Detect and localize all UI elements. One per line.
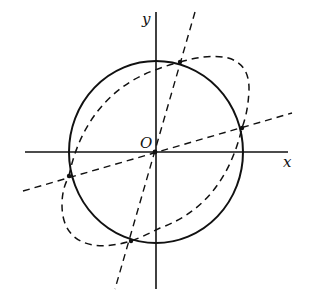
x-axis-label: x [283, 153, 292, 171]
intersection-point [67, 174, 71, 178]
origin-label: O [140, 134, 152, 152]
intersection-point [129, 239, 133, 243]
y-axis-label: y [141, 10, 151, 28]
origin-point [153, 150, 158, 155]
intersection-point [240, 126, 244, 130]
diagram-canvas: y x O [0, 0, 312, 306]
intersection-point [178, 60, 182, 64]
